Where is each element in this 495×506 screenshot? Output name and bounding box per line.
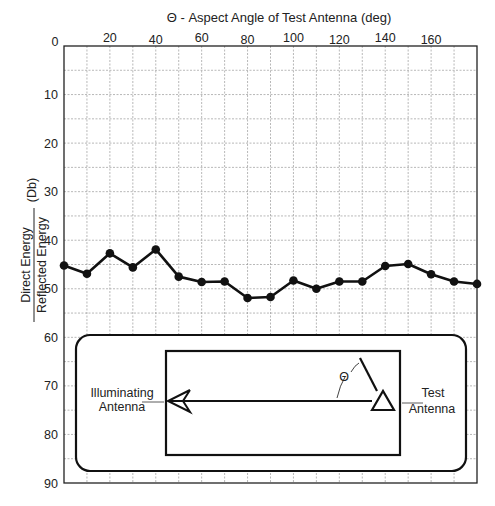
y-tick-label: 60 — [44, 331, 58, 345]
y-tick-label: 10 — [44, 88, 58, 102]
test-antenna-label-line2: Antenna — [409, 402, 456, 416]
test-antenna-label-line1: Test — [422, 386, 445, 400]
x-tick-label: 100 — [283, 31, 304, 45]
data-point — [450, 277, 459, 286]
data-point — [381, 262, 390, 271]
data-point — [129, 263, 138, 272]
y-tick-label: 30 — [44, 185, 58, 199]
data-point — [335, 277, 344, 286]
y-label-unit: (Db) — [25, 178, 39, 202]
data-point — [174, 272, 183, 281]
data-point — [473, 280, 482, 289]
x-tick-label: 140 — [375, 31, 396, 45]
data-point — [404, 260, 413, 269]
data-point — [358, 277, 367, 286]
x-tick-label: 120 — [329, 33, 350, 47]
x-tick-label: 40 — [149, 33, 163, 47]
y-tick-label: 90 — [44, 477, 58, 491]
data-point — [60, 261, 69, 270]
data-point — [427, 270, 436, 279]
y-tick-label: 20 — [44, 137, 58, 151]
y-label-denominator: Reflected Energy — [35, 216, 49, 313]
data-point — [220, 277, 229, 286]
data-point — [312, 284, 321, 293]
data-point — [266, 293, 275, 302]
x-tick-label: 80 — [241, 33, 255, 47]
data-point — [289, 276, 298, 285]
data-point — [197, 278, 206, 287]
inset-diagram: Θ Illuminating Antenna Test Antenna — [76, 335, 466, 471]
data-point — [106, 249, 115, 258]
y-tick-label: 80 — [44, 428, 58, 442]
x-tick-label: 160 — [421, 33, 442, 47]
theta-symbol: Θ — [339, 370, 349, 384]
illuminating-antenna-label-line1: Illuminating — [90, 386, 153, 400]
x-tick-label: 20 — [103, 31, 117, 45]
y-tick-label: 70 — [44, 379, 58, 393]
data-point — [83, 269, 92, 278]
x-tick-label: 60 — [195, 31, 209, 45]
chart: Θ - Aspect Angle of Test Antenna (deg) 0… — [0, 0, 495, 506]
y-axis-label: Direct Energy Reflected Energy (Db) — [19, 178, 49, 322]
data-point — [243, 294, 252, 303]
x-axis-title: Θ - Aspect Angle of Test Antenna (deg) — [167, 10, 392, 25]
y-label-numerator: Direct Energy — [19, 226, 33, 302]
illuminating-antenna-label-line2: Antenna — [99, 400, 146, 414]
x-tick-label: 0 — [52, 35, 59, 49]
data-point — [151, 245, 160, 254]
